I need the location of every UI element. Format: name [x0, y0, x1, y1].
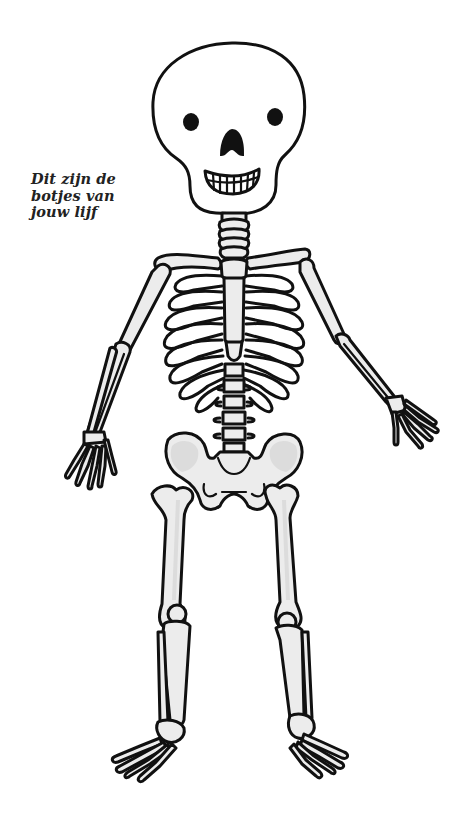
- sternum-top: [221, 259, 247, 279]
- left-eye-socket: [183, 113, 199, 131]
- right-leg: [265, 485, 312, 723]
- right-humerus: [300, 259, 345, 344]
- left-humerus: [118, 264, 171, 355]
- left-hand: [65, 432, 116, 489]
- left-foot: [112, 720, 184, 782]
- neck-vertebrae: [219, 213, 249, 258]
- left-leg: [152, 486, 193, 726]
- left-arm: [88, 264, 171, 437]
- skeleton-illustration: [0, 0, 462, 817]
- sternum: [224, 278, 244, 345]
- lumbar-spine: [214, 364, 254, 452]
- right-tibia: [276, 625, 304, 723]
- skull: [153, 43, 305, 214]
- right-hand: [386, 396, 438, 448]
- right-eye-socket: [267, 108, 283, 126]
- right-arm: [300, 259, 395, 404]
- right-foot: [288, 714, 347, 778]
